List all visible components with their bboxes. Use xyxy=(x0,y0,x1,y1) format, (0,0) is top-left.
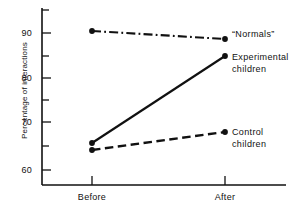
series-normals xyxy=(89,28,228,42)
series-label-experimental-line1: Experimental xyxy=(232,52,301,64)
x-axis-ticks xyxy=(92,176,225,185)
y-tick-label-70: 70 xyxy=(10,117,32,127)
y-axis-label: Percentage of interactions xyxy=(20,31,29,151)
series-experimental-line xyxy=(92,56,225,143)
series-experimental-point-after xyxy=(222,53,228,59)
series-normals-line xyxy=(92,31,225,39)
y-tick-label-60: 60 xyxy=(10,165,32,175)
series-experimental-point-before xyxy=(89,140,95,146)
series-control-point-after xyxy=(222,129,228,135)
series-experimental-children xyxy=(89,53,228,146)
series-label-control: Control children xyxy=(232,127,301,150)
y-axis-major-ticks xyxy=(42,33,51,170)
series-label-control-line1: Control xyxy=(232,127,301,139)
y-tick-label-80: 80 xyxy=(10,73,32,83)
x-tick-label-before: Before xyxy=(62,192,122,202)
series-control-line xyxy=(92,132,225,150)
series-label-control-line2: children xyxy=(232,139,301,151)
chart-figure: Percentage of interactions 90 80 70 60 B… xyxy=(0,0,301,210)
series-control-children xyxy=(89,129,228,153)
series-label-experimental-line2: children xyxy=(232,64,301,76)
series-control-point-before xyxy=(89,147,95,153)
series-normals-point-after xyxy=(222,36,228,42)
series-label-normals: “Normals” xyxy=(232,29,301,41)
series-normals-point-before xyxy=(89,28,95,34)
y-tick-label-90: 90 xyxy=(10,28,32,38)
x-tick-label-after: After xyxy=(195,192,255,202)
series-label-experimental: Experimental children xyxy=(232,52,301,75)
